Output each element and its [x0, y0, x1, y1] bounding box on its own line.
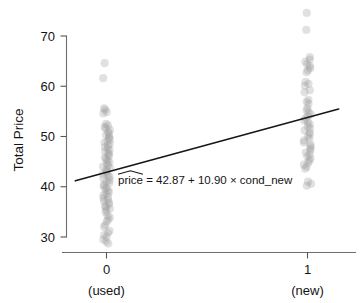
- regression-equation-text: price = 42.87 + 10.90 × cond_new: [118, 174, 293, 186]
- data-point: [101, 59, 109, 67]
- y-tick-group: 3040506070: [41, 29, 67, 245]
- y-tick-label: 30: [41, 230, 55, 245]
- regression-line: [75, 109, 338, 181]
- equation-body: = 42.87 + 10.90 × cond_new: [143, 174, 293, 186]
- data-point: [301, 165, 309, 173]
- y-tick-label: 40: [41, 179, 55, 194]
- data-point: [303, 9, 311, 17]
- data-point: [104, 239, 112, 247]
- y-axis-title: Total Price: [11, 108, 26, 171]
- data-points-layer: [99, 9, 315, 248]
- x-tick-label: 1: [304, 262, 311, 277]
- data-point: [300, 88, 308, 96]
- data-point: [303, 182, 311, 190]
- regression-equation-annotation: price = 42.87 + 10.90 × cond_new: [118, 171, 293, 186]
- x-tick-label: 0: [103, 262, 110, 277]
- data-point: [302, 26, 310, 34]
- x-tick-group: 0(used)1(new): [88, 253, 324, 299]
- scatter-plot-figure: 3040506070 0(used)1(new) Total Price pri…: [0, 0, 363, 303]
- y-tick-label: 50: [41, 129, 55, 144]
- y-tick-label: 60: [41, 79, 55, 94]
- x-tick-sublabel: (new): [291, 283, 324, 298]
- y-tick-label: 70: [41, 29, 55, 44]
- equation-response-variable: price: [118, 174, 143, 186]
- data-point: [99, 109, 107, 117]
- plot-canvas: 3040506070 0(used)1(new) Total Price pri…: [0, 0, 363, 303]
- data-point: [99, 74, 107, 82]
- data-point: [302, 68, 310, 76]
- x-tick-sublabel: (used): [88, 283, 125, 298]
